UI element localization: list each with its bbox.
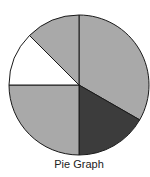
pie-slice: [9, 85, 79, 155]
pie-chart: [0, 0, 150, 160]
chart-caption: Pie Graph: [0, 158, 150, 170]
